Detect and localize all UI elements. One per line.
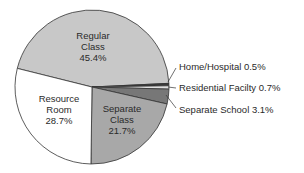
label-separate-school: Separate School 3.1%: [179, 104, 274, 115]
label-regular-class: RegularClass45.4%: [76, 30, 109, 63]
label-home-hospital: Home/Hospital 0.5%: [179, 61, 266, 72]
leader-home-hospital: [168, 68, 176, 82]
pie-chart: RegularClass45.4%SeparateClass21.7%Resou…: [0, 0, 304, 173]
label-residential-facility: Residential Facilty 0.7%: [179, 82, 281, 93]
